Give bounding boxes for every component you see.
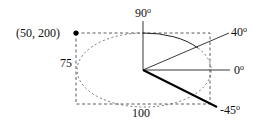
point-label: (50, 200) bbox=[16, 26, 60, 40]
ellipse-angle-diagram: (50, 200) 75 100 90o 40o 0o -45o bbox=[0, 0, 265, 123]
angle-label-neg45: -45o bbox=[220, 103, 240, 117]
width-label: 100 bbox=[132, 106, 150, 120]
ray-40 bbox=[143, 33, 229, 70]
angle-label-0: 0o bbox=[234, 63, 244, 77]
angle-label-40: 40o bbox=[231, 25, 247, 39]
height-label: 75 bbox=[60, 56, 72, 70]
angle-label-90: 90o bbox=[135, 6, 151, 20]
ellipse-solid-arc bbox=[143, 33, 198, 48]
start-point-dot bbox=[73, 30, 78, 35]
